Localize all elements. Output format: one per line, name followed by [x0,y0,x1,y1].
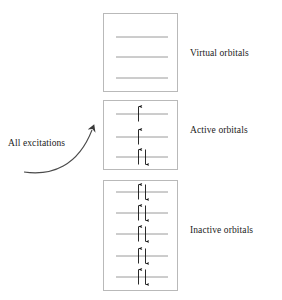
orbital-box-active [103,100,178,170]
orbital-box-virtual [103,13,178,92]
diagram-canvas: Virtual orbitals Active orbitals Inactiv… [0,0,282,300]
all-excitations-arrow [24,130,92,173]
orbital-box-inactive [103,180,178,291]
all-excitations-label: All excitations [8,138,65,149]
group-label-virtual: Virtual orbitals [190,48,249,59]
group-label-active: Active orbitals [190,125,248,136]
group-label-inactive: Inactive orbitals [190,225,253,236]
